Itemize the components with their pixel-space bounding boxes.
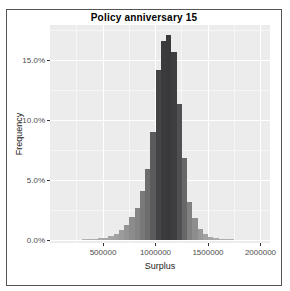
y-axis-tick [47,60,50,61]
histogram-bar [229,239,234,240]
vertical-gridline [208,25,209,243]
histogram-figure: Policy anniversary 15 500000100000015000… [0,0,290,291]
chart-title: Policy anniversary 15 [6,12,282,23]
x-axis-tick [260,243,261,246]
x-axis-tick [155,243,156,246]
x-tick-label: 2000000 [245,248,276,257]
x-tick-label: 1500000 [192,248,223,257]
x-tick-label: 500000 [90,248,117,257]
y-tick-label: 5.0% [12,176,45,185]
x-axis-title: Surplus [50,261,270,271]
x-axis-tick [208,243,209,246]
x-axis-tick [103,243,104,246]
y-axis-tick [47,120,50,121]
y-tick-label: 15.0% [12,56,45,65]
vertical-gridline [260,25,261,243]
horizontal-gridline-minor [50,30,270,31]
x-tick-label: 1000000 [140,248,171,257]
y-axis-tick [47,240,50,241]
y-axis-tick [47,180,50,181]
plot-panel [50,25,270,243]
y-tick-label: 0.0% [12,236,45,245]
y-axis-title: Frequency [14,113,24,156]
vertical-gridline [103,25,104,243]
